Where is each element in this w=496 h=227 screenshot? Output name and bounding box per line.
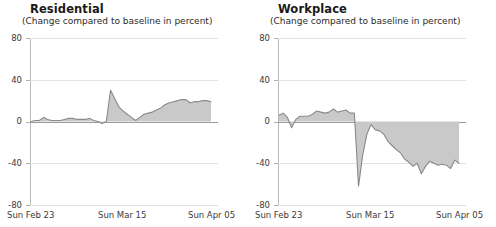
x-tick-label-feb23: Sun Feb 23 — [7, 210, 54, 220]
tick-neg80 — [26, 205, 30, 206]
y-tick-label-40: 40 — [0, 75, 22, 85]
y-tick-label-neg80: -80 — [0, 200, 22, 210]
series-area-workplace — [278, 38, 466, 205]
x-tick-label-mar15: Sun Mar 15 — [346, 210, 394, 220]
tick-neg80 — [274, 205, 278, 206]
x-tick-label-feb23: Sun Feb 23 — [255, 210, 302, 220]
y-tick-label-0: 0 — [248, 116, 270, 126]
gridline-neg80 — [278, 205, 466, 206]
panel-residential: Residential (Change compared to baseline… — [0, 0, 248, 227]
chart-subtitle-workplace: (Change compared to baseline in percent) — [270, 16, 460, 26]
chart-title-workplace: Workplace — [278, 2, 347, 16]
x-tick-label-apr05: Sun Apr 05 — [188, 210, 235, 220]
y-tick-label-80: 80 — [248, 33, 270, 43]
plot-area-workplace — [278, 38, 466, 205]
panel-workplace: Workplace (Change compared to baseline i… — [248, 0, 496, 227]
y-tick-label-neg40: -40 — [248, 158, 270, 168]
y-tick-label-0: 0 — [0, 116, 22, 126]
x-tick-label-mar15: Sun Mar 15 — [98, 210, 146, 220]
y-tick-label-neg40: -40 — [0, 158, 22, 168]
plot-area-residential — [30, 38, 218, 205]
gridline-neg80 — [30, 205, 218, 206]
series-area-residential — [30, 38, 218, 205]
y-tick-label-80: 80 — [0, 33, 22, 43]
y-tick-label-neg80: -80 — [248, 200, 270, 210]
x-tick-label-apr05: Sun Apr 05 — [436, 210, 483, 220]
y-tick-label-40: 40 — [248, 75, 270, 85]
mobility-charts-board: Residential (Change compared to baseline… — [0, 0, 496, 227]
chart-title-residential: Residential — [30, 2, 104, 16]
chart-subtitle-residential: (Change compared to baseline in percent) — [22, 16, 212, 26]
